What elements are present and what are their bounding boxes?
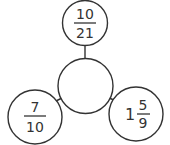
node-top-denominator: 21 — [76, 25, 94, 41]
node-bottom-left-numerator: 7 — [31, 99, 40, 115]
node-bottom-right-circle — [109, 87, 163, 141]
fraction-diagram: 10 21 7 10 1 5 9 — [0, 0, 170, 145]
node-bottom-left-denominator: 10 — [26, 119, 44, 135]
center-answer-circle[interactable] — [58, 59, 113, 114]
node-bottom-right: 1 5 9 — [109, 87, 163, 141]
node-top: 10 21 — [63, 1, 108, 46]
node-top-numerator: 10 — [76, 6, 94, 22]
node-bottom-right-whole: 1 — [125, 105, 135, 124]
node-bottom-right-denominator: 9 — [139, 115, 148, 131]
node-bottom-left: 7 10 — [8, 90, 62, 144]
node-bottom-right-numerator: 5 — [139, 97, 148, 113]
